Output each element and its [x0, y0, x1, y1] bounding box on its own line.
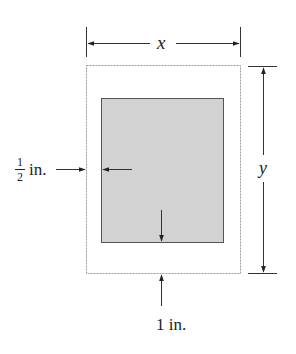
printed-area: [102, 99, 224, 243]
side-margin-unit: in.: [29, 161, 46, 178]
fraction-denominator: 2: [15, 171, 25, 183]
side-margin-fraction: 1 2: [15, 156, 25, 183]
bottom-margin-label: 1 in.: [156, 316, 186, 333]
fraction-numerator: 1: [15, 156, 25, 168]
width-label-x: x: [157, 33, 165, 52]
height-label-y: y: [258, 159, 268, 177]
